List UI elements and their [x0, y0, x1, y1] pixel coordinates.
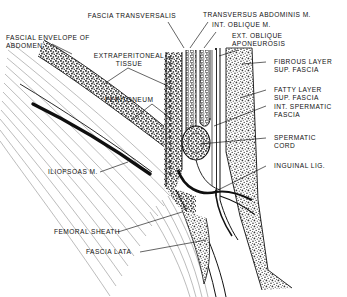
label-internal-oblique: INT. OBLIQUE M.: [212, 21, 271, 29]
label-spermatic-cord-line2: CORD: [274, 142, 295, 150]
label-extraperitoneal-line2: TISSUE: [84, 60, 174, 68]
label-fatty-layer-line1: FATTY LAYER: [274, 86, 322, 94]
label-ext-oblique-aponeurosis-line2: APONEUROSIS: [232, 40, 285, 48]
muscle-layer-transversus-abdominis: [186, 50, 196, 136]
label-femoral-sheath: FEMORAL SHEATH: [54, 228, 120, 236]
label-transversus-abdominis: TRANSVERSUS ABDOMINIS M.: [203, 11, 311, 19]
label-iliopsoas: ILIOPSOAS M.: [48, 168, 98, 176]
label-int-spermatic-fascia-line2: FASCIA: [274, 111, 300, 119]
label-fascia-lata: FASCIA LATA: [86, 248, 131, 256]
label-fascial-envelope-line1: FASCIAL ENVELOPE OF: [6, 34, 90, 42]
label-ext-oblique-aponeurosis-line1: EXT. OBLIQUE: [232, 32, 282, 40]
label-spermatic-cord-line1: SPERMATIC: [274, 134, 316, 142]
label-int-spermatic-fascia-line1: INT. SPERMATIC: [274, 103, 332, 111]
label-fascia-transversalis: FASCIA TRANSVERSALIS: [72, 12, 192, 20]
label-fibrous-layer-line1: FIBROUS LAYER: [274, 58, 332, 66]
spermatic-cord-shape: [182, 126, 210, 160]
label-fatty-layer-line2: SUP. FASCIA: [274, 94, 319, 102]
muscle-layer-internal-oblique: [200, 50, 210, 126]
anatomical-diagram-figure: FASCIA TRANSVERSALIS TRANSVERSUS ABDOMIN…: [0, 0, 347, 297]
label-fascial-envelope-line2: ABDOMEN: [6, 42, 43, 50]
internal-spermatic-fascia: [212, 50, 216, 190]
label-fibrous-layer-line2: SUP. FASCIA: [274, 66, 319, 74]
label-extraperitoneal-line1: EXTRAPERITONEAL: [84, 52, 174, 60]
label-peritoneum: PERITONEUM: [105, 96, 153, 104]
label-inguinal-ligament: INGUINAL LIG.: [274, 162, 325, 170]
